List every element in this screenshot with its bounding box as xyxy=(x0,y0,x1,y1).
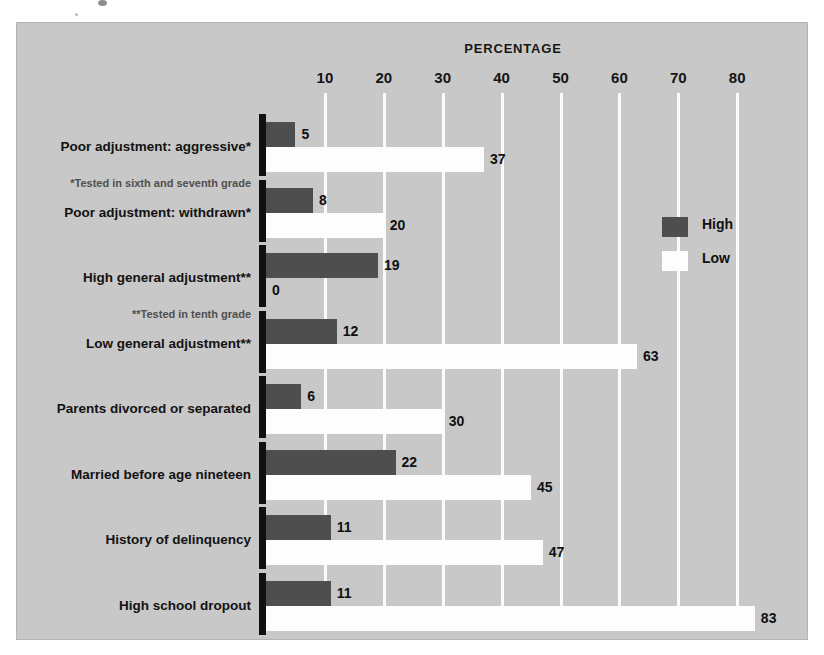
dark-swatch-icon xyxy=(662,217,688,237)
bar-value-low: 20 xyxy=(390,213,406,238)
footnote-single-asterisk: *Tested in sixth and seventh grade xyxy=(21,177,251,189)
bar-high xyxy=(266,515,331,540)
category-label: Low general adjustment** xyxy=(31,336,251,351)
bar-value-low: 30 xyxy=(449,409,465,434)
bar-value-low: 83 xyxy=(761,606,777,631)
bar-high xyxy=(266,253,378,278)
footnote-double-asterisk: **Tested in tenth grade xyxy=(21,308,251,320)
bar-value-high: 6 xyxy=(307,384,315,409)
chart-plate: PERCENTAGE 1020304050607080 537Poor adju… xyxy=(16,22,808,640)
bar-low xyxy=(266,540,543,565)
bar-value-high: 22 xyxy=(402,450,418,475)
bar-low xyxy=(266,147,484,172)
light-swatch-icon xyxy=(662,251,688,271)
category-label: History of delinquency xyxy=(31,532,251,547)
legend-item-high: High xyxy=(662,213,782,247)
bar-value-high: 11 xyxy=(337,581,352,606)
bar-value-low: 63 xyxy=(643,344,659,369)
bar-low xyxy=(266,606,755,631)
bar-value-high: 8 xyxy=(319,188,327,213)
page-top-bleed xyxy=(0,0,824,22)
bar-low xyxy=(266,213,384,238)
category-label: High general adjustment** xyxy=(31,270,251,285)
plot-area: 537Poor adjustment: aggressive*820Poor a… xyxy=(17,23,809,641)
category-label: Poor adjustment: aggressive* xyxy=(31,139,251,154)
bar-value-high: 19 xyxy=(384,253,400,278)
category-label: Married before age nineteen xyxy=(31,467,251,482)
legend-item-low: Low xyxy=(662,247,782,281)
bar-low xyxy=(266,344,637,369)
bleed-mark xyxy=(75,13,78,16)
bar-high xyxy=(266,319,337,344)
bar-value-low: 47 xyxy=(549,540,565,565)
category-label: Parents divorced or separated xyxy=(31,401,251,416)
bar-value-high: 5 xyxy=(301,122,309,147)
chart-legend: High Low xyxy=(662,213,782,281)
category-label: Poor adjustment: withdrawn* xyxy=(31,205,251,220)
bar-low xyxy=(266,475,531,500)
bar-value-high: 12 xyxy=(343,319,359,344)
bar-value-low: 0 xyxy=(272,278,280,303)
chart-page: PERCENTAGE 1020304050607080 537Poor adju… xyxy=(0,0,824,655)
bar-low xyxy=(266,409,443,434)
bar-high xyxy=(266,122,295,147)
bar-value-high: 11 xyxy=(337,515,352,540)
legend-label-high: High xyxy=(702,216,733,232)
bar-high xyxy=(266,450,396,475)
legend-label-low: Low xyxy=(702,250,730,266)
bar-value-low: 45 xyxy=(537,475,553,500)
bleed-mark xyxy=(98,0,107,6)
bar-high xyxy=(266,384,301,409)
category-label: High school dropout xyxy=(31,598,251,613)
bar-high xyxy=(266,581,331,606)
bar-high xyxy=(266,188,313,213)
bar-value-low: 37 xyxy=(490,147,506,172)
